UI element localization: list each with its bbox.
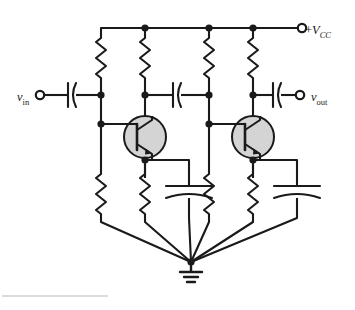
supply-label: +VCC [305,21,331,40]
output-label-subscript: out [317,97,328,107]
junction-emitter2 [249,156,256,163]
circuit-schematic-canvas [0,0,355,310]
base-bias-verticals [101,95,253,124]
capacitor-emitter-bypass-2 [274,186,320,198]
upper-resistor-bank [96,28,258,95]
junction-base2-node [205,91,212,98]
emitter-bypass-network-1 [145,160,212,218]
emitter-bypass-network-2 [253,160,320,218]
output-label: vout [311,88,327,107]
resistor-rc1 [140,28,150,95]
capacitor-output-coupling [273,83,281,107]
resistor-re2 [248,160,258,222]
transistor-q1 [101,116,166,160]
junction-collector1 [141,91,148,98]
junction-supply-rc1 [141,24,148,31]
junction-base2 [205,120,212,127]
input-label-subscript: in [23,97,30,107]
transistor-q2 [209,116,274,160]
supply-rail-net [101,24,306,32]
supply-label-subscript: CC [320,30,331,40]
junction-ground-node [187,258,194,265]
resistor-rc2 [248,28,258,95]
circuit-diagram-figure: vin vout +VCC [0,0,355,310]
resistor-rb1-lower [96,124,106,222]
signal-coupling-row [36,83,304,107]
junction-collector2 [249,91,256,98]
ground-fan-in-lines [101,218,297,262]
junction-base1 [97,120,104,127]
resistor-rb2-upper [204,28,214,95]
input-terminal [36,91,44,99]
junction-supply-rc2 [249,24,256,31]
resistor-rb1-upper [96,28,106,95]
resistor-rb2-lower [204,124,214,222]
supply-label-symbol: V [312,23,320,37]
junction-supply-rb2 [205,24,212,31]
junction-base1-coupling [97,91,104,98]
supply-label-prefix: + [305,23,312,37]
input-label: vin [17,88,29,107]
capacitor-input-coupling [68,83,76,107]
output-terminal [296,91,304,99]
capacitor-interstage [173,83,181,107]
resistor-re1 [140,160,150,222]
junction-emitter1 [141,156,148,163]
